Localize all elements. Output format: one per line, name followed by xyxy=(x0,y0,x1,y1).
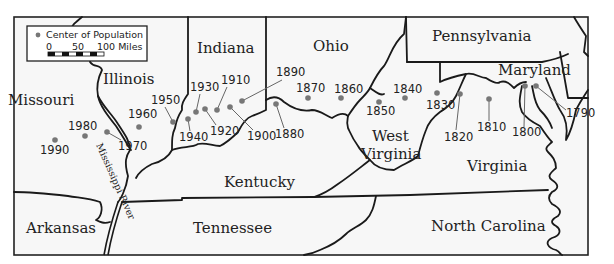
svg-text:1860: 1860 xyxy=(334,82,363,96)
svg-text:1870: 1870 xyxy=(296,81,325,95)
legend-dot-icon xyxy=(36,33,41,38)
svg-text:1800: 1800 xyxy=(512,125,541,139)
legend: Center of Population 0 50 100 Miles xyxy=(27,26,147,61)
svg-text:1930: 1930 xyxy=(190,80,219,94)
state-label-arkansas: Arkansas xyxy=(25,219,96,237)
state-label-virginia: Virginia xyxy=(466,157,527,175)
legend-symbol-label: Center of Population xyxy=(46,29,143,40)
state-label-north-carolina: North Carolina xyxy=(431,217,546,235)
svg-text:1970: 1970 xyxy=(118,139,147,153)
state-label-maryland: Maryland xyxy=(498,61,571,79)
border-pennsylvania-west xyxy=(406,17,407,62)
svg-text:1900: 1900 xyxy=(247,129,276,143)
state-label-ohio: Ohio xyxy=(313,37,349,55)
scale-tick-50: 50 xyxy=(72,41,84,52)
svg-text:1950: 1950 xyxy=(151,93,180,107)
state-label-indiana: Indiana xyxy=(197,39,255,57)
state-label-pennsylvania: Pennsylvania xyxy=(432,27,531,45)
state-label-west-virginia-line2: Virginia xyxy=(360,145,421,163)
scale-tick-0: 0 xyxy=(46,41,52,52)
state-label-illinois: Illinois xyxy=(103,70,155,88)
svg-text:1840: 1840 xyxy=(393,82,422,96)
svg-text:1940: 1940 xyxy=(179,130,208,144)
population-center-map: Missouri Illinois Indiana Ohio Pennsylva… xyxy=(0,0,614,264)
svg-text:1920: 1920 xyxy=(210,124,239,138)
svg-text:1960: 1960 xyxy=(128,107,157,121)
state-label-west-virginia-line1: West xyxy=(372,127,409,145)
svg-text:1890: 1890 xyxy=(276,65,305,79)
svg-text:1910: 1910 xyxy=(221,73,250,87)
svg-text:1830: 1830 xyxy=(426,98,455,112)
svg-text:1880: 1880 xyxy=(275,127,304,141)
svg-text:1990: 1990 xyxy=(40,143,69,157)
svg-text:1850: 1850 xyxy=(366,104,395,118)
svg-text:1790: 1790 xyxy=(566,106,595,120)
state-label-kentucky: Kentucky xyxy=(224,173,296,191)
svg-text:1810: 1810 xyxy=(477,120,506,134)
svg-text:1980: 1980 xyxy=(68,119,97,133)
svg-text:1820: 1820 xyxy=(444,130,473,144)
scale-tick-100: 100 Miles xyxy=(97,41,142,52)
scale-bar xyxy=(48,52,104,56)
state-label-missouri: Missouri xyxy=(8,91,74,109)
state-label-tennessee: Tennessee xyxy=(193,219,272,237)
